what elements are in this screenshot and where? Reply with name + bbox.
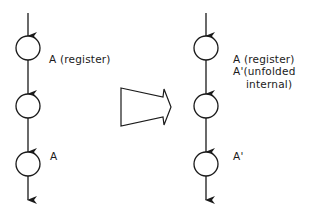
- transform-arrow-icon: [121, 88, 171, 126]
- left-chain: [16, 13, 40, 200]
- diagram-canvas: A (register) A A (register) A'(unfolded …: [0, 0, 311, 210]
- right-node-3: [194, 152, 218, 176]
- right-label-unfolded: A'(unfolded: [233, 65, 296, 77]
- left-node-3: [16, 152, 40, 176]
- diagram-graphics: [0, 0, 311, 210]
- right-node-1: [194, 36, 218, 60]
- right-node-2: [194, 94, 218, 118]
- left-label-a: A: [50, 150, 57, 162]
- right-chain: [194, 13, 218, 200]
- left-label-register: A (register): [49, 53, 111, 65]
- right-label-register: A (register): [233, 53, 295, 65]
- right-label-internal: internal): [246, 78, 292, 90]
- left-node-1: [16, 36, 40, 60]
- right-label-a-prime: A': [233, 150, 243, 162]
- left-node-2: [16, 94, 40, 118]
